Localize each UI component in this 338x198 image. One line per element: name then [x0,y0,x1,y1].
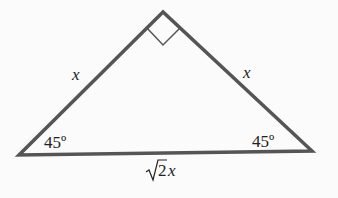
left-leg-label: x [72,66,80,83]
hypotenuse-coefficient: 2 [158,162,167,179]
right-leg-label: x [243,64,251,81]
hypotenuse-variable: x [168,162,176,179]
right-angle-marker [147,28,180,45]
left-angle-label: 45º [44,134,66,151]
right-angle-label: 45º [252,133,274,150]
